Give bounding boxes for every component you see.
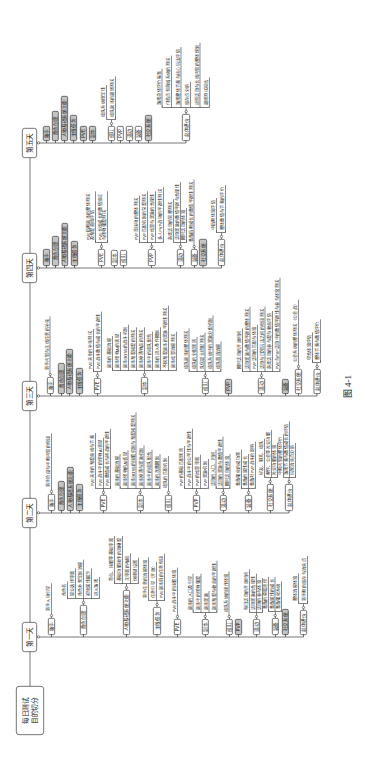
leaf-topic: 新手期的留存与流失点 xyxy=(303,556,308,604)
leaf-topic: 各类活动的参与度与收益评估 xyxy=(267,311,272,372)
day3-topic-newbie: 新手 xyxy=(47,377,53,394)
leaf-topic: 组队副本的整体测试 xyxy=(184,328,189,372)
day3-topic-dungeon: 副本 xyxy=(141,377,148,394)
day2-topic-team: 组队 xyxy=(165,495,172,511)
day2-topic-equipment: 装备 xyxy=(245,495,252,511)
day-topic-1: 第一天 xyxy=(22,622,37,652)
leaf-topic: 组队系统稳定性 xyxy=(102,85,107,120)
leaf-topic: 副本BOSS的战斗机制 xyxy=(123,325,128,371)
leaf-topic: PVP匹配机制的深度测试 xyxy=(142,191,147,243)
collapse-toggle-icon xyxy=(195,491,198,494)
day5-topic-main-quest: 主线任务 xyxy=(70,115,77,141)
day2-topic-newbie: 新手 xyxy=(48,494,55,511)
day3-topic-team: 组队 xyxy=(202,378,209,394)
day4-topic-pvp: PVP xyxy=(148,249,155,266)
leaf-topic: 活动与日常玩法之间的衔接测试 xyxy=(260,307,265,372)
leaf-topic: 背包、技能等基础界面 xyxy=(109,536,114,584)
day4-topic-events: 活动 xyxy=(177,249,184,266)
day2-topic-pvp: PVP xyxy=(193,495,200,511)
leaf-topic: 活动奖励的合理性 xyxy=(251,574,256,613)
day2-topic-events: 活动 xyxy=(220,495,227,511)
day5-topic-team: 组队 xyxy=(108,126,115,141)
leaf-topic: 副本掉落物品的测试 xyxy=(139,327,144,371)
collapse-toggle-icon xyxy=(96,374,99,377)
leaf-topic: PVP竞技场的整体测试 xyxy=(134,196,139,243)
day4-topic-dungeon: 副本 xyxy=(111,250,117,266)
leaf-topic: 队伍职业搭配测试 xyxy=(200,333,205,372)
leaf-topic: 主界面的布局 xyxy=(125,553,130,584)
leaf-topic: PVE战斗中的怪物AI表现 xyxy=(98,438,103,489)
leaf-topic: 快捷键设置 xyxy=(133,558,138,584)
leaf-topic: 组队系统中的奖励分配机制 xyxy=(208,315,213,372)
leaf-topic: 副本的入口及引导 xyxy=(188,574,193,613)
collapse-toggle-icon xyxy=(50,490,53,493)
leaf-topic: 活动奖励与数值平衡的整体测试 xyxy=(245,307,250,372)
collapse-toggle-icon xyxy=(50,614,53,617)
leaf-topic: 装备的获取途径 xyxy=(263,577,268,612)
collapse-toggle-icon xyxy=(37,395,40,398)
leaf-topic: 装备属性的成长 xyxy=(270,577,275,612)
day1-topic-newbie: 新手 xyxy=(48,618,55,635)
collapse-toggle-icon xyxy=(247,491,250,494)
leaf-topic: 邮件、公会等社交功能 xyxy=(266,430,271,478)
day-topic-5: 第五天 xyxy=(22,128,37,158)
leaf-topic: 装备强化的成功率 xyxy=(236,450,241,489)
day1-topic-social: 社交系统 xyxy=(282,609,289,635)
leaf-topic: 游戏总体评价标准 xyxy=(157,69,162,108)
day3-topic-pve: PVE xyxy=(94,378,101,394)
leaf-topic: 副本奖励 xyxy=(204,591,209,613)
day1-topic-pve: PVE xyxy=(174,619,181,635)
day2-topic-character-creation: 角色创建 xyxy=(58,481,64,511)
collapse-toggle-icon xyxy=(179,245,182,248)
leaf-topic: 新手阶段与中期内容的衔接 xyxy=(46,433,51,490)
day5-topic-dungeon: 副本 xyxy=(89,126,96,141)
collapse-toggle-icon xyxy=(297,365,300,368)
leaf-topic: 角色名 xyxy=(62,581,67,599)
day3-topic-pvp: PVP xyxy=(225,379,232,394)
leaf-topic: 组队系统的操作体验 xyxy=(224,571,229,615)
spine-line xyxy=(30,158,31,686)
collapse-toggle-icon xyxy=(100,245,103,248)
leaf-topic: 社交功能的体验 xyxy=(273,443,278,478)
leaf-topic: 最终测试报告 xyxy=(204,77,209,108)
collapse-toggle-icon xyxy=(287,480,290,483)
day3-topic-social: 社交系统 xyxy=(295,369,302,394)
collapse-toggle-icon xyxy=(193,245,196,248)
figure-caption: 图 4-1 xyxy=(341,358,354,415)
leaf-topic: 整体数值与节奏的评价 xyxy=(221,185,226,233)
leaf-topic: 副本中的组队配合 xyxy=(147,332,152,371)
day1-topic-dungeon: 副本 xyxy=(202,619,209,635)
leaf-topic: PVP奖励机制 xyxy=(203,459,208,489)
collapse-toggle-icon xyxy=(110,122,113,125)
collapse-toggle-icon xyxy=(274,614,277,617)
day5-topic-newbie: 新手 xyxy=(43,126,50,141)
day4-topic-character-creation: 角色创建 xyxy=(52,236,59,266)
collapse-toggle-icon xyxy=(228,615,231,618)
day5-topic-pve: PVE xyxy=(80,126,87,141)
leaf-topic: 角色外观定制流程 xyxy=(78,560,83,599)
leaf-topic: 装备后期成长的数值平衡性测试 xyxy=(189,180,194,245)
leaf-topic: 中期内容的整体评价 xyxy=(279,434,284,478)
day2-topic-dungeon: 副本 xyxy=(137,495,143,511)
collapse-toggle-icon xyxy=(269,480,272,483)
leaf-topic: 整体流程体验 xyxy=(294,573,299,604)
day5-topic-character-creation: 角色创建 xyxy=(52,111,58,141)
collapse-toggle-icon xyxy=(222,491,225,494)
day2-topic-overall-evaluation: 总体评价 xyxy=(285,484,293,511)
leaf-topic: 副本中的组队配合 xyxy=(147,450,152,489)
collapse-toggle-icon xyxy=(155,603,158,606)
leaf-topic: 进入游戏 xyxy=(94,577,99,599)
collapse-toggle-icon xyxy=(102,491,105,494)
leaf-topic: PVE长线成长的数值验证 与怪物强度测试 xyxy=(98,191,108,243)
leaf-topic: 新手内容与主线任务的补充 xyxy=(45,316,50,373)
collapse-toggle-icon xyxy=(143,373,146,376)
leaf-topic: PVP的基础匹配规则 xyxy=(179,446,184,489)
collapse-toggle-icon xyxy=(49,373,52,376)
day-topic-4: 第四天 xyxy=(22,253,37,283)
leaf-topic: PVP结算与奖励的合理性 xyxy=(150,191,155,243)
leaf-topic: 副本难度梯度的测试 xyxy=(131,327,136,371)
day2-topic-basic-systems: 人物基础系统功能 xyxy=(67,467,73,511)
leaf-topic: 装备对PVP战斗的影响 xyxy=(250,442,255,489)
day4-topic-main-quest: 主线任务 xyxy=(71,241,78,266)
collapse-toggle-icon xyxy=(82,601,85,604)
